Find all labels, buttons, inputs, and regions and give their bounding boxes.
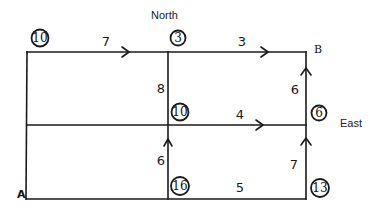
node-middle-right: 6: [312, 106, 327, 121]
edge-weight: 5: [236, 180, 244, 195]
edge-weights: 7 3 8 4 6 6 5 7: [102, 34, 299, 195]
north-label: North: [151, 9, 178, 21]
node-top-middle: 3: [171, 31, 186, 46]
node-bottom-center: 16: [171, 177, 189, 195]
node-value: 13: [312, 181, 327, 195]
start-point-label: A: [17, 188, 26, 201]
node-bottom-right: 13: [311, 179, 329, 197]
edge-weight: 7: [102, 34, 110, 49]
end-point-label: B: [314, 43, 322, 56]
node-top-left: 10: [32, 30, 49, 47]
street-grid-diagram: 7 3 8 4 6 6 5 7 10 3 10 6 16: [0, 0, 385, 212]
east-label: East: [340, 117, 362, 129]
node-value: 16: [172, 179, 187, 193]
edge-weight: 6: [291, 82, 299, 97]
edge-left-column: [26, 52, 27, 199]
node-value: 10: [172, 105, 187, 119]
edge-weight: 7: [290, 157, 298, 172]
node-middle-center: 10: [172, 104, 189, 121]
node-values: 10 3 10 6 16 13: [32, 30, 330, 198]
grid-edges: [26, 52, 306, 199]
edge-weight: 8: [157, 81, 165, 96]
direction-arrows: [122, 47, 311, 146]
edge-weight: 6: [157, 153, 165, 168]
node-value: 6: [315, 106, 323, 120]
node-value: 10: [32, 31, 47, 45]
edge-weight: 4: [236, 107, 244, 122]
edge-weight: 3: [238, 34, 246, 49]
node-value: 3: [174, 31, 182, 45]
